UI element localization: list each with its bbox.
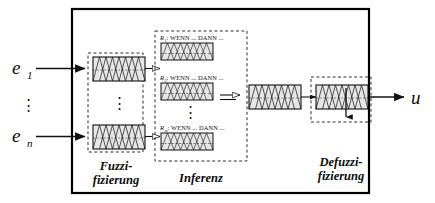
output-u-label: u <box>411 87 421 108</box>
rule-1-id: R <box>159 34 164 41</box>
fuzzy-controller-diagram: e 1 ⋮ e n ⋮ Fuzzi- fizierung <box>0 0 435 203</box>
inference-ellipsis: ⋮ <box>183 104 198 120</box>
input-ellipsis: ⋮ <box>21 97 36 113</box>
diagram-canvas: e 1 ⋮ e n ⋮ Fuzzi- fizierung <box>0 0 435 203</box>
defuzzification-mf-box <box>316 85 368 117</box>
rule-m-id: R <box>159 124 164 131</box>
stage-label-fuzzification-line2: fizierung <box>93 173 140 187</box>
fuzzification-mf-box-1 <box>93 57 145 81</box>
rule-2-id: R <box>159 74 164 81</box>
input-e1-label: e <box>12 57 20 78</box>
input-en-subscript: n <box>27 137 33 149</box>
rule-1-text: : WENN ... DANN ... <box>167 34 224 41</box>
fuzzification-mf-box-2 <box>93 125 145 149</box>
inference-rule-1: R 1 : WENN ... DANN ... <box>159 34 224 60</box>
inference-aggregation-arrow <box>220 95 240 100</box>
stage-label-fuzzification-line1: Fuzzi- <box>99 159 133 173</box>
inference-rule-m: R m : WENN ... DANN ... <box>159 124 225 150</box>
fuzzification-ellipsis: ⋮ <box>112 95 127 111</box>
input-e1-subscript: 1 <box>27 69 33 81</box>
inference-rule-2: R 2 : WENN ... DANN ... <box>159 74 224 100</box>
stage-label-defuzzification-line2: fizierung <box>318 169 365 183</box>
aggregation-mf-box <box>249 85 301 109</box>
stage-label-defuzzification-line1: Defuzzi- <box>318 155 362 169</box>
stage-label-inference: Inferenz <box>178 171 223 185</box>
input-en-label: e <box>12 125 20 146</box>
rule-m-text: : WENN ... DANN ... <box>168 124 225 131</box>
rule-2-text: : WENN ... DANN ... <box>167 74 224 81</box>
